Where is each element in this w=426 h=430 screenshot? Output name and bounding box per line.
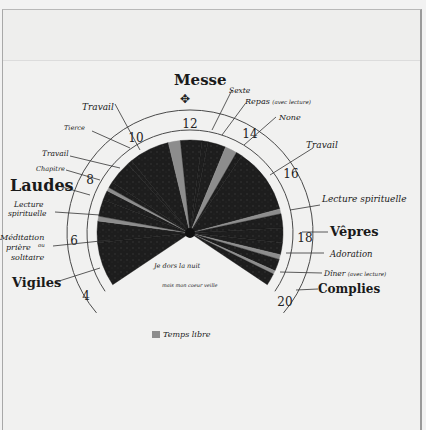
hour-20: 20 [277, 295, 292, 309]
legend-swatch-free-time [152, 331, 160, 338]
label-meditation-2: prière [6, 243, 31, 252]
hour-12: 12 [182, 117, 197, 131]
hour-4: 4 [82, 289, 90, 303]
label-meditation-3: solitaire [11, 253, 44, 262]
hub [185, 228, 195, 238]
label-diner: Dîner (avec lecture) [323, 269, 386, 278]
night-line-2: mais mon coeur veille [162, 282, 218, 288]
label-lecture-am-2: spirituelle [8, 209, 47, 218]
legend-label: Temps libre [163, 330, 211, 339]
label-laudes: Laudes [10, 176, 74, 195]
hour-18: 18 [297, 231, 312, 245]
label-vigiles: Vigiles [11, 275, 61, 290]
label-travail-early: Travail [42, 149, 69, 158]
hour-14: 14 [242, 127, 258, 141]
label-sexte: Sexte [229, 86, 251, 95]
label-repas: Repas (avec lecture) [244, 97, 311, 106]
label-vepres: Vêpres [329, 224, 379, 239]
label-lecture-am-1: Lecture [13, 200, 44, 209]
hour-16: 16 [283, 167, 298, 181]
label-adoration: Adoration [329, 249, 373, 259]
label-chapitre: Chapitre [36, 165, 65, 173]
label-messe: Messe [174, 71, 227, 89]
cross-ornament-icon: ✥ [180, 92, 190, 106]
hour-6: 6 [70, 234, 78, 248]
label-meditation-1: Méditation [0, 233, 44, 242]
label-travail-pm: Travail [306, 140, 338, 150]
label-travail-am: Travail [82, 102, 114, 112]
label-none: None [278, 113, 301, 122]
label-meditation-ou: ou [38, 242, 45, 248]
legend: Temps libre [152, 330, 211, 339]
night-line-1: Je dors la nuit [152, 262, 201, 270]
label-lecture-pm: Lecture spirituelle [321, 194, 407, 204]
hour-8: 8 [86, 173, 94, 187]
label-complies: Complies [318, 282, 380, 296]
label-tierce: Tierce [64, 124, 85, 132]
